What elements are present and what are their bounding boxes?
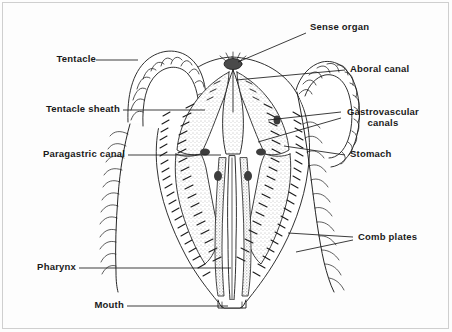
label-mouth: Mouth — [87, 300, 124, 311]
label-comb-plates: Comb plates — [358, 232, 417, 243]
label-sense-organ: Sense organ — [310, 22, 369, 33]
label-pharynx: Pharynx — [30, 262, 76, 273]
label-stomach: Stomach — [350, 149, 392, 160]
label-tentacle: Tentacle — [46, 54, 96, 65]
ctenophore-anatomy-figure: Tentacle Tentacle sheath Paragastric can… — [0, 0, 452, 332]
label-tentacle-sheath: Tentacle sheath — [25, 104, 120, 115]
label-gastrovascular-line2: canals — [347, 118, 419, 129]
label-paragastric-canal: Paragastric canal — [22, 149, 125, 160]
label-gastrovascular-canals: Gastrovascular canals — [347, 107, 419, 128]
leader-sense-organ — [238, 33, 306, 62]
leader-comb-plates-1 — [288, 233, 353, 237]
sense-organ — [224, 59, 242, 70]
label-aboral-canal: Aboral canal — [350, 64, 409, 75]
label-gastrovascular-line1: Gastrovascular — [347, 107, 419, 118]
anatomy-drawing — [0, 0, 452, 332]
